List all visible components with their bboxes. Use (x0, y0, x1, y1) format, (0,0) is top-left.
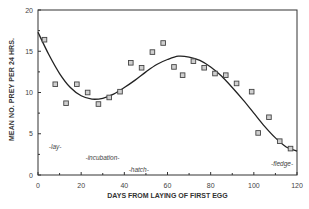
data-point (202, 65, 207, 70)
phase-annotation: -fledge- (271, 160, 294, 168)
x-axis-label: DAYS FROM LAYING OF FIRST EGG (38, 192, 297, 199)
data-point (64, 101, 69, 106)
y-tick-label: 20 (25, 7, 33, 14)
x-tick-label: 80 (207, 182, 215, 189)
phase-annotation: -incubation- (85, 154, 120, 161)
data-point (213, 71, 218, 76)
data-point (42, 37, 47, 42)
data-point (277, 139, 282, 144)
data-point (53, 82, 58, 87)
x-tick-label: 0 (36, 182, 40, 189)
x-tick-label: 60 (164, 182, 172, 189)
x-tick-label: 40 (120, 182, 128, 189)
data-point (150, 50, 155, 55)
y-tick-label: 0 (29, 172, 33, 179)
data-point (288, 146, 293, 151)
data-point (129, 61, 134, 66)
data-point (96, 102, 101, 107)
y-tick-label: 5 (29, 130, 33, 137)
phase-annotation: -hatch- (129, 166, 150, 173)
data-point (85, 90, 90, 95)
data-point (118, 89, 123, 94)
y-tick-label: 15 (25, 48, 33, 55)
data-point (256, 131, 261, 136)
y-tick-label: 10 (25, 89, 33, 96)
data-point (172, 65, 177, 70)
x-tick-label: 120 (291, 182, 303, 189)
chart: 05101520 020406080100120 -lay--incubatio… (0, 0, 309, 209)
phase-annotation: -lay- (49, 143, 62, 151)
data-points (42, 37, 293, 151)
data-point (139, 65, 144, 70)
x-tick-label: 100 (248, 182, 260, 189)
data-point (267, 115, 272, 120)
phase-annotations: -lay--incubation--hatch--fledge- (49, 143, 294, 173)
data-point (223, 73, 228, 78)
x-tick-label: 20 (77, 182, 85, 189)
y-axis-label: MEAN NO. PREY PER 24 HRS. (8, 15, 15, 165)
data-point (75, 82, 80, 87)
data-point (180, 73, 185, 78)
data-point (249, 89, 254, 94)
data-point (234, 81, 239, 86)
data-point (107, 95, 112, 100)
data-point (161, 41, 166, 46)
data-point (191, 59, 196, 64)
